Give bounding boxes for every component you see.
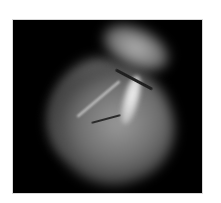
heart-body-region — [36, 48, 190, 193]
heart-render-image: Grayscale volume-rendered image of a hea… — [13, 20, 202, 193]
image-description: Grayscale volume-rendered image of a hea… — [13, 20, 14, 21]
